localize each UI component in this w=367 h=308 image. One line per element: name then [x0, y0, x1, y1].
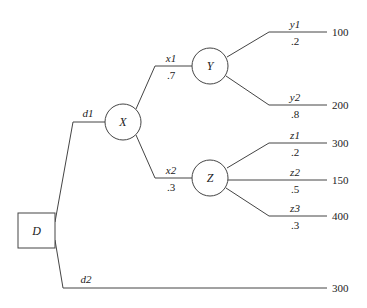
branch-z1: [227, 143, 327, 168]
branch-label-y2: y2: [289, 91, 301, 103]
payoff-y1: 100: [332, 26, 349, 38]
branch-d2: [55, 240, 327, 288]
decision-node-label: D: [31, 224, 41, 238]
branch-prob-z1: .2: [291, 146, 299, 158]
branch-x1: [136, 66, 192, 109]
branch-label-d1: d1: [83, 107, 94, 119]
branch-label-z2: z2: [289, 166, 300, 178]
branch-label-d2: d2: [81, 273, 93, 285]
branch-y2: [226, 76, 327, 105]
chance-node-z-label: Z: [207, 171, 214, 185]
branch-prob-z3: .3: [291, 219, 300, 231]
chance-node-x-label: X: [118, 115, 127, 129]
decision-tree-diagram: D X Y Z d1 d2 x1 .7 x2 .3 y1 .2 y2 .8 z1…: [0, 0, 367, 308]
payoff-z1: 300: [332, 137, 349, 149]
branch-prob-x2: .3: [167, 181, 176, 193]
payoff-y2: 200: [332, 99, 349, 111]
branch-x2: [136, 135, 192, 178]
branch-label-z3: z3: [289, 202, 300, 214]
branch-prob-y1: .2: [291, 35, 299, 47]
payoff-d2: 300: [332, 282, 349, 294]
payoff-z2: 150: [332, 174, 349, 186]
branch-z3: [226, 188, 327, 216]
branch-y1: [227, 32, 327, 57]
branch-d1: [55, 122, 105, 222]
branch-label-y1: y1: [289, 18, 300, 30]
branch-label-x1: x1: [165, 52, 176, 64]
payoff-z3: 400: [332, 210, 349, 222]
branch-prob-y2: .8: [291, 108, 300, 120]
branch-prob-z2: .5: [291, 183, 300, 195]
branch-prob-x1: .7: [167, 69, 176, 81]
branch-label-z1: z1: [289, 129, 300, 141]
branch-label-x2: x2: [165, 164, 177, 176]
